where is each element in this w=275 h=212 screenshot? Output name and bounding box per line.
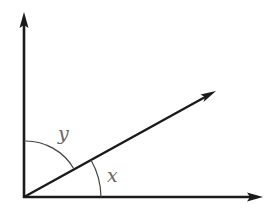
angle-y-arc (24, 141, 74, 169)
angle-y-label: y (57, 122, 69, 144)
diagonal-arrowhead-icon (201, 91, 217, 102)
angle-x-label: x (107, 164, 118, 186)
angle-x-arc (91, 160, 101, 197)
angle-diagram: y x (0, 0, 275, 212)
